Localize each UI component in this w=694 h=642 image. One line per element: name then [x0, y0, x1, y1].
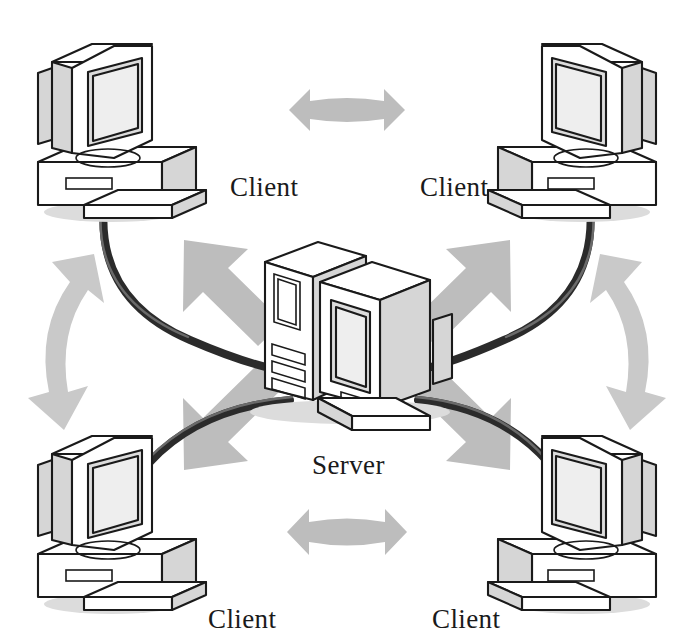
monitor-side-face [622, 62, 642, 153]
network-diagram-canvas: Client Client [0, 0, 694, 642]
client-top-left-label: Client [230, 172, 298, 202]
keyboard-front [84, 597, 172, 610]
monitor-side-face [622, 454, 642, 545]
server-monitor-side [380, 280, 430, 408]
monitor-screen-inner [556, 456, 601, 533]
server-label: Server [312, 450, 385, 480]
monitor-screen-inner [93, 64, 138, 141]
keyboard-front [522, 597, 610, 610]
client-bottom-right-label: Client [432, 604, 500, 634]
keyboard-front [522, 205, 610, 218]
monitor-side-face [52, 62, 72, 153]
monitor-side-face [52, 454, 72, 545]
monitor-screen-inner [556, 64, 601, 141]
server-monitor-screen-inner [336, 307, 366, 387]
server-monitor-right-vent [433, 314, 452, 384]
client-top-right-label: Client [420, 172, 488, 202]
server-keyboard-front [352, 416, 430, 430]
client-bottom-left-label: Client [208, 604, 276, 634]
monitor-screen-inner [93, 456, 138, 533]
keyboard-front [84, 205, 172, 218]
network-diagram: Client Client [0, 0, 694, 642]
